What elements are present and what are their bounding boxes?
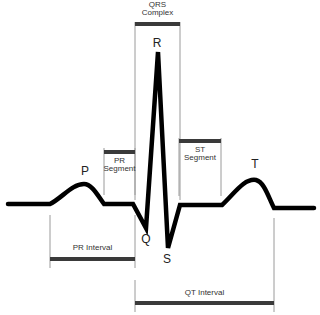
qrs-complex-label: QRS Complex	[135, 1, 180, 18]
st-segment-bar	[179, 139, 221, 143]
qt-interval-label: QT Interval	[135, 289, 274, 297]
pr-segment-label-line2: Segment	[102, 165, 137, 173]
qrs-complex-bar	[135, 22, 180, 26]
qt-interval-bar	[135, 301, 274, 305]
s-wave-label: S	[160, 253, 174, 266]
ecg-trace	[8, 52, 314, 248]
q-wave-label: Q	[139, 233, 153, 246]
pr-interval-bar	[50, 257, 135, 261]
r-wave-label: R	[150, 37, 164, 50]
st-segment-label: ST Segment	[179, 146, 221, 163]
pr-segment-bar	[104, 150, 135, 154]
st-segment-label-line2: Segment	[179, 154, 221, 162]
pr-segment-label: PR Segment	[102, 157, 137, 174]
p-wave-label: P	[78, 165, 92, 178]
qrs-complex-label-line2: Complex	[135, 9, 180, 17]
t-wave-label: T	[248, 158, 262, 171]
pr-interval-label: PR Interval	[50, 244, 135, 252]
